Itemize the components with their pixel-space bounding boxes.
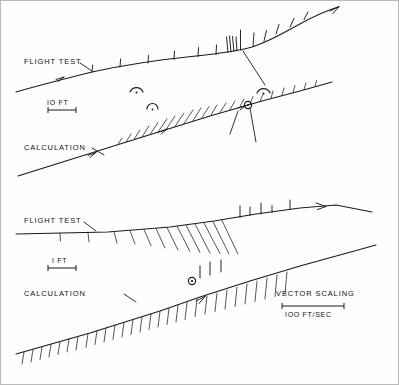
scale-bar-upper (48, 107, 76, 113)
vector-scaling-value: IOO FT/SEC (285, 311, 332, 318)
calculation-upper-trace (18, 82, 332, 176)
vortex-marker-1-dot (136, 92, 138, 94)
scale-upper-label: IO FT (47, 99, 68, 106)
vortex-marker-4-dot (247, 104, 249, 106)
flight-test-lower-group (16, 200, 372, 254)
flight-test-lower-label: FLIGHT TEST (24, 217, 82, 225)
scale-bar-lower (48, 265, 76, 271)
calculation-lower-trace (16, 245, 376, 354)
calculation-lower-vectors (22, 272, 287, 364)
flight-test-upper-trace (16, 7, 338, 92)
leader-line-calculation-2 (230, 111, 238, 134)
flight-test-lower-down-vectors (60, 221, 238, 255)
leader-line-upper (243, 51, 265, 85)
label-leader-lines (80, 63, 136, 302)
flight-test-upper-group (16, 7, 339, 93)
vortex-marker-2-dot (152, 109, 154, 111)
vector-scaling-bar (282, 303, 344, 309)
calculation-lower-group (16, 245, 376, 364)
vortex-marker-3-arc (257, 89, 270, 93)
vortex-marker-2-arc (147, 104, 158, 110)
calculation-upper-group (18, 81, 332, 177)
flight-test-upper-arrowhead (330, 7, 339, 14)
calculation-lower-label: CALCULATION (24, 290, 86, 298)
flight-test-upper-vortex-cluster (227, 12, 309, 53)
calculation-upper-label: CALCULATION (24, 144, 86, 152)
figure-container: FLIGHT TEST IO FT CALCULATION FLIGHT TES… (0, 0, 399, 385)
vortex-markers-upper (130, 88, 270, 111)
vortex-marker-5-dot (191, 280, 193, 282)
vector-scaling-title: VECTOR SCALING (276, 290, 355, 298)
leader-line-calculation (250, 108, 256, 142)
calculation-lower-junction-vectors (200, 260, 221, 278)
flight-test-upper-label: FLIGHT TEST (24, 58, 82, 66)
scale-lower-label: I FT (52, 257, 67, 264)
vortex-marker-1-arc (130, 88, 143, 92)
